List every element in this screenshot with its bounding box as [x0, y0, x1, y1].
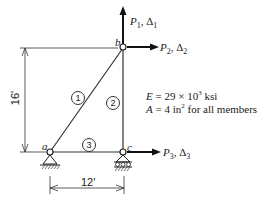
member-label-3: 3 [82, 138, 96, 152]
load-label-p1: P1, Δ1 [130, 16, 157, 30]
node-label-c: c [127, 142, 132, 153]
load-label-p2: P2, Δ2 [160, 42, 187, 56]
member-label-1: 1 [71, 91, 85, 105]
property-a: A = 4 in2 for all members [146, 102, 257, 115]
load-label-p3: P3, Δ3 [163, 147, 190, 161]
dimension-height: 16' [9, 91, 21, 105]
member-label-2: 2 [106, 96, 120, 110]
property-e: E = 29 × 103 ksi [146, 89, 217, 102]
dimension-width: 12' [81, 176, 95, 188]
node-label-b: b [115, 37, 121, 48]
node-label-a: a [42, 141, 48, 152]
